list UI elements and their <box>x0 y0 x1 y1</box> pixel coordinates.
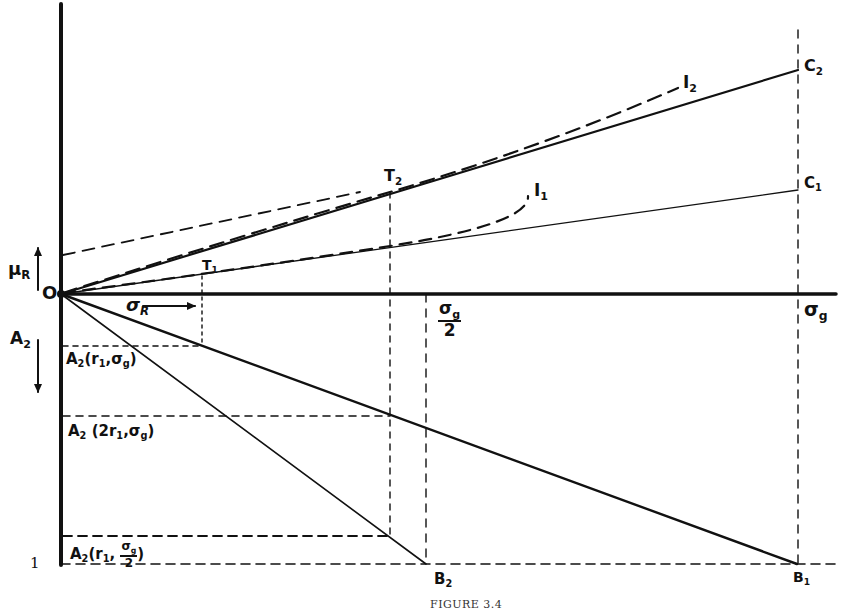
sigma-g-label: σg <box>804 300 828 323</box>
ray-oc2 <box>61 70 798 294</box>
annotation-a2-r1-sg: A2(r1,σg) <box>66 352 137 369</box>
point-c1-label: C1 <box>804 176 822 193</box>
point-b2-label: B2 <box>434 572 452 589</box>
sigma-g-half-label: σg2 <box>438 300 461 339</box>
ray-ob1 <box>61 294 797 564</box>
figure-caption: FIGURE 3.4 <box>430 598 502 608</box>
point-t1-label: T1 <box>202 258 218 275</box>
sigma-r-label: σR <box>126 296 149 318</box>
annotation-a2-r1-sg-half: A2(r1, σg2) <box>70 540 144 569</box>
unit-label: 1 <box>30 556 40 571</box>
mu-r-label: μR <box>8 260 30 282</box>
origin-dot <box>57 290 65 298</box>
point-t2-label: T2 <box>384 168 402 186</box>
annotation-a2-2r1-sg: A2 (2r1,σg) <box>68 424 154 441</box>
curve-i2-label: I2 <box>683 74 697 94</box>
curve-i1 <box>63 196 528 293</box>
curve-i1-label: I1 <box>534 182 548 202</box>
point-c2-label: C2 <box>804 58 823 76</box>
origin-label: O <box>42 284 57 302</box>
point-b1-label: B1 <box>793 570 810 587</box>
a2-axis-label: A2 <box>10 330 31 350</box>
curve-i2 <box>63 88 678 293</box>
